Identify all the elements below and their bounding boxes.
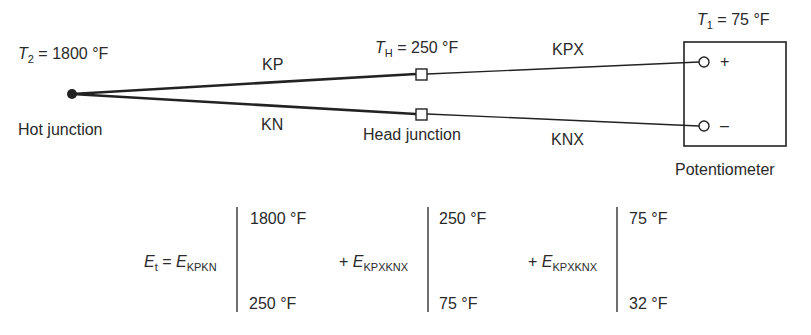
temp-symbol: T (697, 11, 707, 28)
term-subscript: KPXKNX (363, 261, 408, 273)
hot-junction-dot (67, 89, 77, 99)
temp-symbol: T (18, 45, 28, 62)
term-symbol: E (542, 253, 553, 270)
lhs-symbol: E (144, 253, 155, 270)
wire-kpx-label: KPX (552, 42, 584, 58)
wire-kp-label: KP (262, 57, 283, 73)
temp-value: = 75 °F (717, 11, 769, 28)
plus-sign: + (528, 253, 537, 270)
wire-knx (427, 114, 699, 126)
plus-terminal-label: + (720, 54, 729, 70)
term-symbol: E (353, 253, 364, 270)
equation-term-2: + EKPXKNX (339, 254, 408, 270)
head-junction-square-bottom (416, 109, 427, 120)
plus-sign: + (339, 253, 348, 270)
equation-lhs: Et = EKPKN (144, 254, 217, 270)
wire-kpx (427, 62, 699, 74)
temp-symbol: T (375, 39, 385, 56)
term-symbol: E (176, 253, 187, 270)
potentiometer-label: Potentiometer (675, 162, 775, 178)
term-2-upper: 250 °F (439, 211, 486, 227)
head-junction-label: Head junction (363, 127, 461, 143)
term-2-lower: 75 °F (439, 296, 477, 312)
wire-kp (72, 74, 416, 94)
term-3-upper: 75 °F (629, 211, 667, 227)
minus-terminal-icon (699, 121, 709, 131)
head-junction-temp: TH = 250 °F (375, 40, 458, 56)
term-subscript: KPKN (187, 261, 217, 273)
plus-terminal-icon (699, 57, 709, 67)
temp-value: = 250 °F (397, 39, 458, 56)
term-1-upper: 1800 °F (250, 211, 306, 227)
equals-sign: = (162, 253, 171, 270)
potentiometer-box (684, 42, 786, 146)
hot-junction-label: Hot junction (18, 122, 103, 138)
equation-term-3: + EKPXKNX (528, 254, 597, 270)
head-junction-square-top (416, 69, 427, 80)
temp-subscript: H (385, 47, 393, 59)
term-1-lower: 250 °F (249, 296, 296, 312)
term-3-lower: 32 °F (629, 296, 667, 312)
hot-junction-temp: T2 = 1800 °F (18, 46, 108, 62)
lhs-subscript: t (155, 261, 158, 273)
term-subscript: KPXKNX (552, 261, 597, 273)
temp-value: = 1800 °F (38, 45, 108, 62)
wire-knx-label: KNX (551, 132, 584, 148)
wire-kn (72, 94, 416, 114)
temp-subscript: 1 (707, 19, 713, 31)
wire-kn-label: KN (261, 117, 283, 133)
temp-subscript: 2 (28, 53, 34, 65)
minus-terminal-label: – (720, 118, 729, 134)
potentiometer-temp: T1 = 75 °F (697, 12, 770, 28)
